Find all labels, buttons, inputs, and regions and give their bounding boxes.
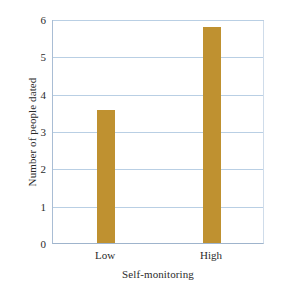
y-axis-tick-label: 5 <box>6 50 46 64</box>
gridline <box>53 169 263 170</box>
x-axis-tick-label: Low <box>70 248 140 263</box>
gridline <box>53 95 263 96</box>
y-axis-tick-label: 0 <box>6 237 46 251</box>
y-axis-tick-labels: 0123456 <box>0 0 46 290</box>
plot-area <box>52 20 264 244</box>
y-axis-tick-label: 2 <box>6 162 46 176</box>
y-axis-tick-label: 6 <box>6 13 46 27</box>
y-axis-tick-label: 1 <box>6 200 46 214</box>
x-axis-tick-label: High <box>176 248 246 263</box>
y-axis-tick-label: 3 <box>6 125 46 139</box>
bar <box>97 110 115 243</box>
gridline <box>53 57 263 58</box>
gridline <box>53 207 263 208</box>
bar-chart: Number of people dated 0123456 LowHigh S… <box>0 0 284 290</box>
gridline <box>53 20 263 21</box>
y-axis-tick-label: 4 <box>6 88 46 102</box>
x-axis-title: Self-monitoring <box>52 266 264 282</box>
gridline <box>53 132 263 133</box>
bar <box>203 27 221 243</box>
